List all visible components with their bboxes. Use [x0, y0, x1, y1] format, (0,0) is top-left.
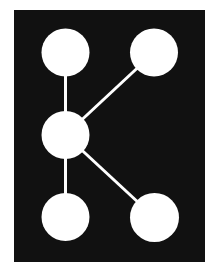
k-node-graph-logo	[0, 0, 209, 274]
node-middle	[42, 111, 90, 159]
node-bottom-right	[130, 193, 179, 242]
node-top-left	[42, 29, 90, 77]
node-bottom-left	[42, 193, 90, 241]
nodes-group	[42, 29, 180, 243]
node-top-right	[130, 29, 178, 77]
